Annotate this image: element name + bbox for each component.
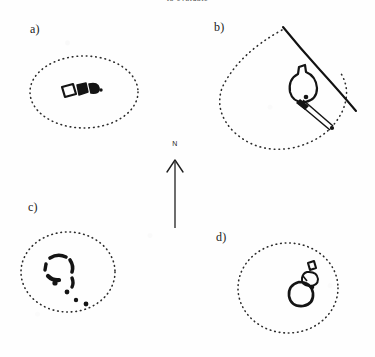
panel-d-boundary: [238, 243, 338, 333]
panel-a-feature-cell: [89, 84, 99, 94]
panel-d-link: [303, 276, 307, 281]
panel-d-feature-rect: [308, 261, 316, 270]
panel-c-plot: [10, 220, 130, 330]
panel-b-features: [290, 65, 334, 130]
panel-d-node: [310, 285, 315, 290]
panel-d-features: [289, 261, 318, 306]
panel-a-plot: [20, 45, 155, 145]
panel-b-node-lower: [330, 126, 334, 130]
figure-top-caption: to evaluate: [0, 0, 375, 1]
panel-d-plot: [225, 232, 353, 354]
panel-c-fragment-8: [74, 298, 78, 302]
panel-b-feature-enclosure: [290, 65, 317, 102]
panel-c-fragment-9: [84, 302, 89, 307]
panel-a-features: [62, 83, 103, 97]
figure-root: to evaluate a) b): [0, 0, 375, 357]
panel-c-fragment-6: [52, 280, 57, 285]
panel-c-fragment-5: [72, 278, 73, 287]
panel-label-a: a): [30, 22, 40, 37]
panel-c-fragment-1: [50, 255, 66, 258]
panel-a-feature-blob: [77, 83, 88, 95]
panel-c-boundary: [21, 232, 115, 312]
panel-d-feature-enclosure: [289, 282, 313, 306]
panel-b-boundary: [220, 30, 347, 149]
north-arrow-glyph: [150, 150, 200, 230]
panel-b-node-upper: [304, 95, 309, 100]
panel-c-fragment-7: [65, 290, 70, 295]
panel-a-feature-dot: [99, 88, 102, 91]
panel-label-c: c): [28, 200, 38, 215]
panel-c-features: [45, 255, 88, 306]
panel-b-plot: [200, 20, 370, 155]
panel-c-fragment-3: [48, 276, 59, 280]
panel-b-corridor-edge-1: [303, 100, 333, 126]
north-arrow-label: N: [150, 140, 200, 147]
panel-c-fragment-2: [45, 264, 46, 270]
north-arrow: N: [150, 140, 200, 230]
panel-c-fragment-4: [70, 260, 73, 272]
panel-a-feature-rect: [62, 84, 76, 97]
